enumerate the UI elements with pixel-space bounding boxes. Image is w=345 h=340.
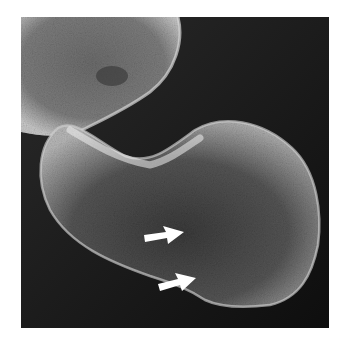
- upper-cell-dimple: [96, 66, 128, 86]
- micrograph-image: [21, 17, 329, 328]
- micrograph-frame: [21, 17, 329, 328]
